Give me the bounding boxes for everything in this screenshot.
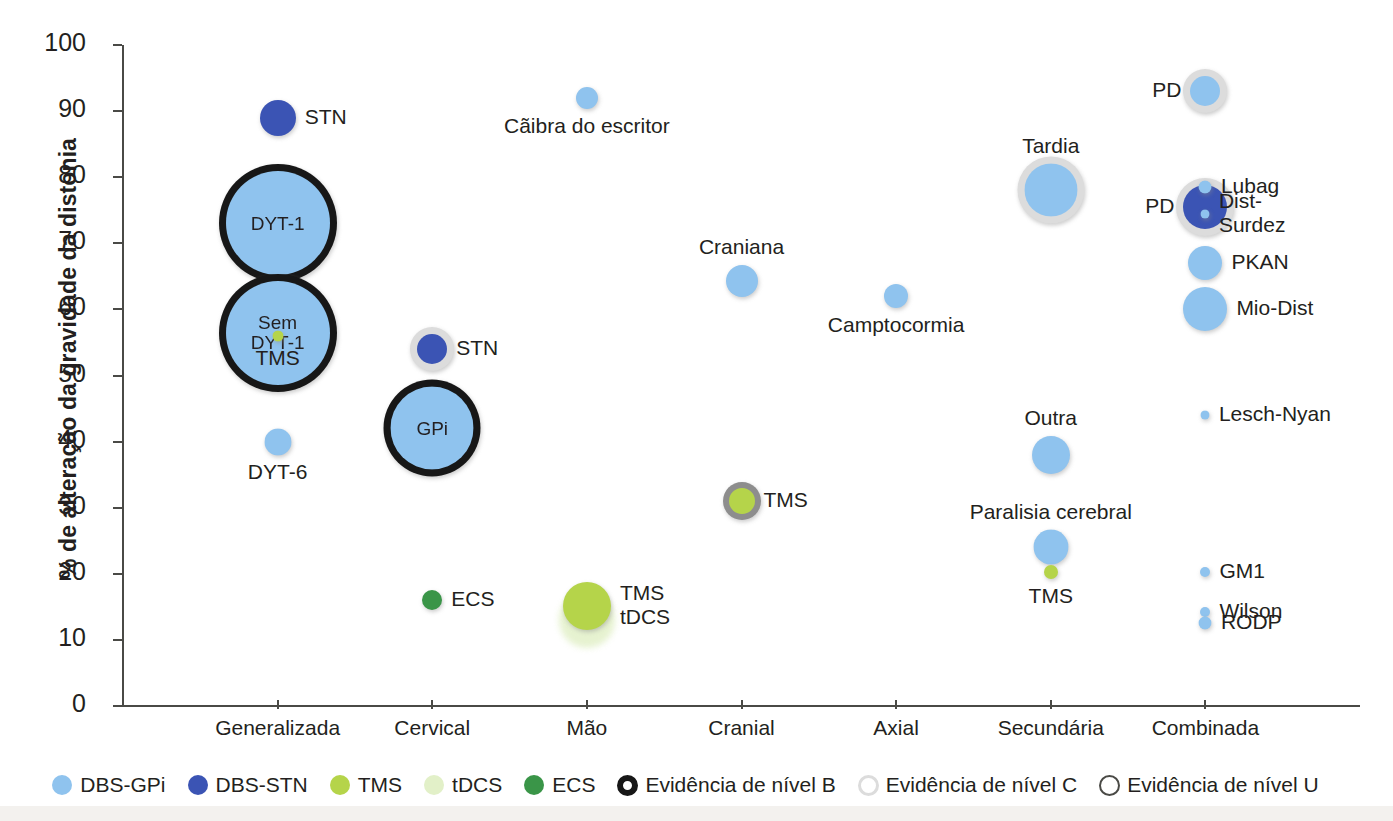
y-tick-label: 0 [26, 689, 86, 718]
bubble-lubag[interactable] [1199, 181, 1212, 194]
bubble-tardia[interactable] [1024, 164, 1077, 217]
legend-item-evid-ncia-de-n-vel-b[interactable]: Evidência de nível B [617, 773, 835, 797]
point-label-tms: TMS [1029, 584, 1073, 608]
legend-ring-icon [858, 775, 879, 796]
y-tick-mark [113, 308, 122, 310]
bubble-stn[interactable] [417, 334, 447, 364]
bubble-inner-label: GPi [416, 419, 448, 438]
legend-dot-icon [424, 775, 444, 795]
bubble-gm1[interactable] [1200, 567, 1210, 577]
point-label-paralisia-cerebral: Paralisia cerebral [970, 500, 1132, 524]
legend-label: tDCS [452, 773, 502, 797]
bubble-inner-label: DYT-1 [251, 214, 305, 233]
point-label-ecs: ECS [451, 587, 494, 611]
x-tick-mark [1204, 700, 1206, 709]
legend-ring-icon [1099, 775, 1120, 796]
legend-label: ECS [552, 773, 595, 797]
bubble-stn[interactable] [260, 100, 296, 136]
point-label-pd: PD [1152, 78, 1181, 102]
x-axis-label-generalizada: Generalizada [215, 716, 340, 740]
point-label-gm1: GM1 [1219, 559, 1265, 583]
point-label-lesch-nyan: Lesch-Nyan [1219, 402, 1331, 426]
y-tick-mark [113, 573, 122, 575]
x-tick-mark [895, 700, 897, 709]
chart-legend: DBS-GPiDBS-STNTMStDCSECSEvidência de nív… [0, 765, 1393, 805]
x-tick-mark [741, 700, 743, 709]
point-label-stn: STN [305, 105, 347, 129]
legend-item-ecs[interactable]: ECS [524, 773, 595, 797]
legend-item-tdcs[interactable]: tDCS [424, 773, 502, 797]
bubble-mio-dist[interactable] [1183, 287, 1227, 331]
point-label-tms: TMS [764, 488, 808, 512]
x-axis-label-mo: Mão [566, 716, 607, 740]
bubble-lesch-nyan[interactable] [1201, 411, 1210, 420]
y-tick-mark [113, 242, 122, 244]
y-tick-mark [113, 44, 122, 46]
bubble-rodp[interactable] [1199, 616, 1212, 629]
y-tick-mark [113, 375, 122, 377]
y-axis-line [122, 45, 124, 706]
bubble-paralisia-cerebral[interactable] [1033, 530, 1068, 565]
legend-label: TMS [358, 773, 402, 797]
legend-label: Evidência de nível C [886, 773, 1077, 797]
x-tick-mark [586, 700, 588, 709]
legend-label: Evidência de nível B [645, 773, 835, 797]
legend-item-dbs-gpi[interactable]: DBS-GPi [52, 773, 165, 797]
x-axis-label-cranial: Cranial [708, 716, 775, 740]
x-axis-label-secundria: Secundária [998, 716, 1104, 740]
plot-area: 0102030405060708090100 GeneralizadaCervi… [0, 0, 1393, 821]
bubble-dist--surdez[interactable] [1201, 209, 1210, 218]
point-label-tardia: Tardia [1022, 134, 1079, 158]
bubble-tms[interactable] [729, 488, 755, 514]
bubble-pd[interactable] [1190, 76, 1220, 106]
legend-item-evid-ncia-de-n-vel-u[interactable]: Evidência de nível U [1099, 773, 1318, 797]
point-label-dyt-6: DYT-6 [248, 460, 308, 484]
bubble-craniana[interactable] [726, 265, 758, 297]
legend-item-evid-ncia-de-n-vel-c[interactable]: Evidência de nível C [858, 773, 1077, 797]
y-tick-mark [113, 639, 122, 641]
bubble-camptocormia[interactable] [884, 284, 908, 308]
bubble-pkan[interactable] [1188, 246, 1222, 280]
bubble-outra[interactable] [1032, 436, 1070, 474]
y-tick-mark [113, 441, 122, 443]
point-label-pkan: PKAN [1231, 250, 1288, 274]
page-bottom-strip [0, 806, 1393, 821]
x-axis-label-axial: Axial [873, 716, 919, 740]
y-tick-mark [113, 507, 122, 509]
y-tick-label: 100 [26, 28, 86, 57]
x-axis-label-combinada: Combinada [1152, 716, 1259, 740]
y-tick-label: 10 [26, 623, 86, 652]
point-label-camptocormia: Camptocormia [828, 313, 965, 337]
point-label-dist--surdez: Dist- Surdez [1219, 189, 1286, 237]
legend-ring-icon [617, 775, 638, 796]
x-tick-mark [431, 700, 433, 709]
legend-dot-icon [188, 775, 208, 795]
legend-dot-icon [524, 775, 544, 795]
legend-label: DBS-STN [216, 773, 308, 797]
bubble-c-ibra-do-escritor[interactable] [576, 87, 598, 109]
legend-dot-icon [52, 775, 72, 795]
x-axis-label-cervical: Cervical [394, 716, 470, 740]
bubble-dyt-6[interactable] [264, 428, 291, 455]
point-label-tms: TMS [255, 346, 299, 370]
legend-item-dbs-stn[interactable]: DBS-STN [188, 773, 308, 797]
bubble-ecs[interactable] [422, 590, 442, 610]
bubble-chart-figure: 0102030405060708090100 GeneralizadaCervi… [0, 0, 1393, 821]
bubble-tms[interactable] [1044, 565, 1058, 579]
point-label-mio-dist: Mio-Dist [1236, 296, 1313, 320]
y-tick-mark [113, 110, 122, 112]
bubble-dyt-1[interactable]: DYT-1 [226, 171, 330, 275]
legend-label: DBS-GPi [80, 773, 165, 797]
legend-dot-icon [330, 775, 350, 795]
legend-item-tms[interactable]: TMS [330, 773, 402, 797]
point-label-outra: Outra [1024, 406, 1077, 430]
bubble-tms-tdcs[interactable] [563, 582, 611, 630]
y-tick-mark [113, 705, 122, 707]
x-tick-mark [1050, 700, 1052, 709]
bubble-gpi[interactable]: GPi [391, 387, 474, 470]
point-label-pd: PD [1145, 194, 1174, 218]
legend-label: Evidência de nível U [1127, 773, 1318, 797]
point-label-stn: STN [456, 336, 498, 360]
y-tick-mark [113, 176, 122, 178]
bubble-tms[interactable] [272, 330, 283, 341]
